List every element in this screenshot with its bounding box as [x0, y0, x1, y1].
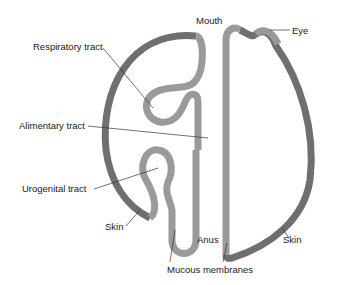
leader-skin-left — [126, 210, 140, 226]
label-anus: Anus — [197, 234, 219, 245]
alimentary-tract-outline — [226, 28, 240, 255]
label-mouth: Mouth — [196, 15, 222, 26]
urogenital-tract-outline — [143, 150, 196, 254]
label-skin-right: Skin — [283, 234, 301, 245]
label-mucous-membranes: Mucous membranes — [167, 264, 253, 275]
eye-outline — [256, 31, 278, 44]
body-surfaces-diagram: Mouth Eye Respiratory tract Alimentary t… — [0, 0, 337, 285]
label-alimentary-tract: Alimentary tract — [19, 120, 85, 131]
right-skin-outline — [226, 30, 311, 258]
label-respiratory-tract: Respiratory tract — [33, 41, 103, 52]
label-eye: Eye — [292, 25, 308, 36]
label-skin-left: Skin — [105, 221, 123, 232]
label-urogenital-tract: Urogenital tract — [22, 183, 87, 194]
